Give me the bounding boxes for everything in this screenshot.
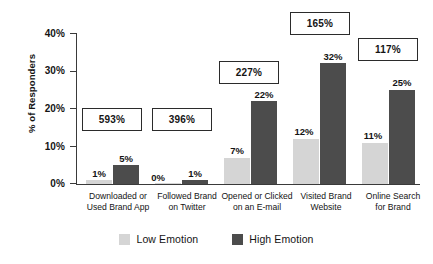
y-tick-label-30: 30% <box>25 65 65 76</box>
y-tick-label-20: 20% <box>25 103 65 114</box>
x-category-label-followed-brand-on-twitter: Followed Brand on Twitter <box>149 191 225 212</box>
x-category-label-downloaded-used-brand-app: Downloaded or Used Brand App <box>80 191 156 212</box>
bar-value-low-downloaded-used-brand-app: 1% <box>78 168 120 179</box>
bar-low-downloaded-used-brand-app[interactable] <box>86 180 112 184</box>
bar-low-visited-brand-website[interactable] <box>293 139 319 184</box>
bar-group-visited-brand-website: 12% 32% <box>289 33 351 184</box>
callout-opened-or-clicked-email: 227% <box>219 61 279 84</box>
bar-value-low-followed-brand-on-twitter: 0% <box>137 172 179 183</box>
bar-value-low-online-search-for-brand: 11% <box>352 130 394 141</box>
x-category-label-online-search-for-brand: Online Search for Brand <box>356 191 430 212</box>
chart-legend: Low Emotion High Emotion <box>0 233 433 245</box>
callout-downloaded-used-brand-app: 593% <box>82 108 142 131</box>
bar-low-online-search-for-brand[interactable] <box>362 143 388 185</box>
bar-high-followed-brand-on-twitter[interactable] <box>182 180 208 184</box>
bar-value-low-visited-brand-website: 12% <box>283 126 325 137</box>
bar-value-high-followed-brand-on-twitter: 1% <box>177 168 213 179</box>
callout-visited-brand-website: 165% <box>290 12 350 35</box>
bar-value-high-downloaded-used-brand-app: 5% <box>108 153 144 164</box>
y-tick-label-0: 0% <box>25 178 65 189</box>
legend-item-high-emotion[interactable]: High Emotion <box>232 233 313 245</box>
bar-high-visited-brand-website[interactable] <box>320 63 346 184</box>
bar-value-high-online-search-for-brand: 25% <box>384 77 420 88</box>
y-axis-title: % of Responders <box>26 39 37 149</box>
x-category-label-opened-or-clicked-email: Opened or Clicked on an E-mail <box>217 191 297 212</box>
x-category-label-visited-brand-website: Visited Brand Website <box>289 191 363 212</box>
legend-label-low-emotion: Low Emotion <box>136 233 198 245</box>
y-tick-label-40: 40% <box>25 28 65 39</box>
legend-swatch-low-emotion-icon <box>119 234 130 245</box>
bar-value-low-opened-or-clicked-email: 7% <box>216 145 258 156</box>
bar-low-followed-brand-on-twitter[interactable] <box>155 183 181 184</box>
legend-swatch-high-emotion-icon <box>232 234 243 245</box>
legend-label-high-emotion: High Emotion <box>249 233 313 245</box>
bar-high-opened-or-clicked-email[interactable] <box>251 101 277 184</box>
bar-value-high-opened-or-clicked-email: 22% <box>246 89 282 100</box>
legend-item-low-emotion[interactable]: Low Emotion <box>119 233 198 245</box>
bar-chart: % of Responders 40% 30% 20% 10% 0% 1% 5%… <box>0 0 433 264</box>
bar-low-opened-or-clicked-email[interactable] <box>224 158 250 184</box>
callout-followed-brand-on-twitter: 396% <box>152 108 212 131</box>
y-tick-label-10: 10% <box>25 141 65 152</box>
bar-value-high-visited-brand-website: 32% <box>315 51 351 62</box>
callout-online-search-for-brand: 117% <box>358 38 418 61</box>
bar-group-opened-or-clicked-email: 7% 22% <box>220 33 282 184</box>
